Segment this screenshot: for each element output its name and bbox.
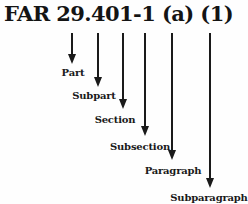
arrow-line — [97, 33, 99, 79]
level-label: Subsection — [110, 141, 170, 152]
arrow-down-icon — [119, 99, 127, 109]
figure-title: FAR 29.401-1 (a) (1) — [4, 1, 233, 26]
arrow-down-icon — [168, 150, 176, 160]
arrow-line — [171, 33, 173, 152]
level-label: Section — [95, 114, 136, 125]
arrow-line — [122, 33, 124, 101]
arrow-down-icon — [68, 54, 76, 64]
level-label: Paragraph — [145, 165, 202, 176]
arrow-line — [209, 33, 211, 180]
arrow-line — [144, 33, 146, 128]
arrow-down-icon — [94, 77, 102, 87]
arrow-down-icon — [206, 178, 214, 188]
arrow-line — [71, 33, 73, 56]
arrow-down-icon — [141, 126, 149, 136]
level-label: Part — [62, 67, 85, 78]
far-designation-diagram: FAR 29.401-1 (a) (1) Part Subpart Sectio… — [0, 0, 248, 204]
level-label: Subparagraph — [170, 192, 247, 203]
level-label: Subpart — [72, 90, 115, 101]
